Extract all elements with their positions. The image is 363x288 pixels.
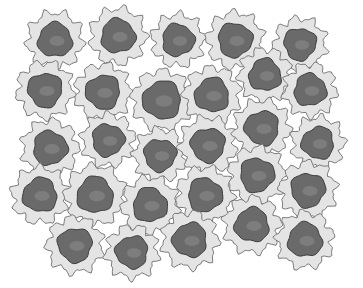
- nucleus-highlight: [302, 186, 317, 196]
- nucleus-highlight: [112, 32, 127, 42]
- nucleus-highlight: [229, 36, 244, 46]
- nucleus-highlight: [206, 91, 221, 101]
- nucleus-highlight: [202, 141, 217, 151]
- nucleus-highlight: [260, 71, 274, 81]
- nucleus-highlight: [246, 221, 261, 231]
- nucleus-highlight: [34, 191, 49, 201]
- nucleus-highlight: [295, 40, 309, 50]
- cell: [150, 10, 207, 68]
- nucleus-highlight: [155, 95, 172, 106]
- nucleus-highlight: [299, 236, 314, 246]
- nucleus-highlight: [127, 248, 141, 258]
- cell: [290, 113, 348, 171]
- nucleus-highlight: [155, 151, 169, 161]
- nucleus-highlight: [251, 171, 266, 181]
- cell: [273, 209, 335, 270]
- cell: [15, 60, 76, 122]
- nucleus-highlight: [69, 241, 84, 251]
- cell: [88, 5, 150, 66]
- cell: [130, 125, 187, 184]
- nucleus-highlight: [89, 191, 105, 202]
- nucleus-highlight: [44, 144, 59, 154]
- cell: [20, 117, 81, 179]
- nucleus-highlight: [173, 36, 187, 46]
- cell-illustration: [0, 0, 363, 288]
- nucleus-highlight: [313, 139, 327, 149]
- cell: [278, 160, 340, 221]
- nucleus-highlight: [103, 136, 117, 146]
- nucleus-highlight: [97, 88, 112, 98]
- nucleus-highlight: [144, 201, 159, 211]
- nucleus-highlight: [39, 86, 54, 96]
- cell: [281, 62, 339, 121]
- nucleus-highlight: [199, 191, 214, 201]
- nucleus-highlight: [49, 36, 64, 46]
- cell: [130, 68, 196, 132]
- cell: [78, 111, 136, 169]
- cell: [44, 215, 105, 277]
- nucleus-highlight: [256, 124, 271, 134]
- nucleus-highlight: [305, 86, 319, 96]
- nucleus-highlight: [184, 236, 199, 246]
- cell: [221, 194, 283, 256]
